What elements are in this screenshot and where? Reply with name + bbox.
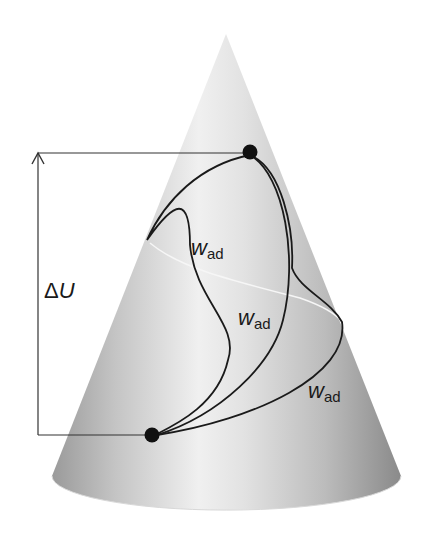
cone-surface xyxy=(52,34,401,510)
bottom-state-dot xyxy=(145,428,160,443)
top-state-dot xyxy=(243,145,258,160)
cone-diagram: ΔU wad wad wad xyxy=(0,0,428,541)
delta-u-label: ΔU xyxy=(44,278,75,303)
